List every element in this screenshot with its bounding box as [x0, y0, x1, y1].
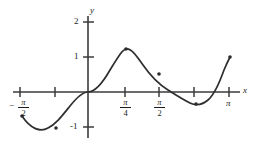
fraction-numerator: π: [154, 98, 165, 107]
y-axis-label: y: [90, 6, 94, 15]
x-axis-label: x: [243, 86, 247, 95]
y-tick-label-minus-1: -1: [70, 122, 78, 131]
data-point-end: [228, 55, 232, 59]
x-tick-label-pi-over-2: π 2: [154, 98, 165, 117]
y-tick-label-2: 2: [74, 17, 79, 26]
x-tick-label-pi-over-2-left: π 2: [18, 98, 29, 117]
y-tick-label-1: 1: [74, 52, 79, 61]
data-point-minimum-right: [194, 102, 198, 106]
data-point-minimum-left: [54, 126, 58, 130]
fraction-denominator: 4: [120, 109, 131, 118]
graph-figure: y x 2 1 -1 − π 2 π 4 π 2 π: [0, 0, 260, 147]
fraction-denominator: 2: [18, 109, 29, 118]
x-tick-label-pi: π: [226, 98, 231, 108]
data-point-inflection: [157, 72, 161, 76]
fraction-numerator: π: [120, 98, 131, 107]
x-tick-label-pi-over-4: π 4: [120, 98, 131, 117]
graph-canvas: [0, 0, 260, 147]
fraction-numerator: π: [18, 98, 29, 107]
fraction-denominator: 2: [154, 109, 165, 118]
data-point-maximum: [124, 47, 128, 51]
x-tick-label-minus-sign: −: [9, 100, 14, 110]
function-curve: [22, 49, 230, 130]
